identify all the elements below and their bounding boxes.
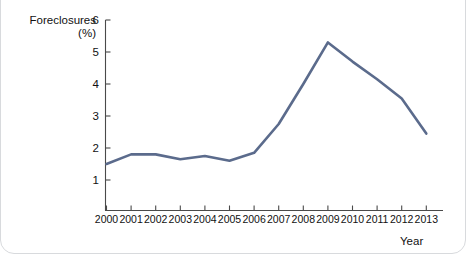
- x-tick-label: 2013: [415, 213, 439, 225]
- x-tick-label-group: 2000200120022003200420052006200720082009…: [95, 213, 438, 225]
- x-tick-label: 2000: [95, 213, 119, 225]
- x-tick-label: 2012: [390, 213, 414, 225]
- x-tick-label: 2007: [267, 213, 291, 225]
- x-tick-mark-group: [107, 206, 427, 211]
- x-tick-label: 2006: [242, 213, 266, 225]
- x-tick-label: 2002: [144, 213, 168, 225]
- data-series-line: [107, 42, 427, 164]
- y-tick-label: 5: [93, 46, 99, 58]
- x-tick-label: 2005: [218, 213, 242, 225]
- x-tick-label: 2010: [341, 213, 365, 225]
- y-tick-label: 6: [93, 14, 99, 26]
- chart-canvas: 123456 200020012002200320042005200620072…: [0, 0, 474, 255]
- y-tick-label-group: 123456: [93, 14, 100, 186]
- x-tick-label: 2003: [169, 213, 193, 225]
- y-tick-label: 4: [93, 78, 100, 90]
- y-tick-label: 3: [93, 110, 99, 122]
- y-tick-label: 2: [93, 142, 99, 154]
- x-tick-label: 2008: [292, 213, 316, 225]
- y-tick-label: 1: [93, 174, 99, 186]
- x-tick-label: 2009: [316, 213, 340, 225]
- foreclosures-line-chart: Foreclosures (%) Year 123456 20002001200…: [0, 0, 474, 255]
- x-tick-label: 2011: [366, 213, 389, 225]
- x-tick-label: 2001: [119, 213, 143, 225]
- y-tick-mark-group: [106, 20, 111, 180]
- x-tick-label: 2004: [193, 213, 217, 225]
